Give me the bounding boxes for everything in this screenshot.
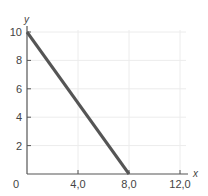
chart: 4,08,012,0246810 x y 0 — [0, 0, 208, 196]
x-tick-label: 12,0 — [169, 178, 190, 190]
x-tick-label: 4,0 — [70, 178, 85, 190]
y-tick-label: 10 — [10, 26, 22, 38]
y-tick-label: 8 — [16, 54, 22, 66]
y-tick-label: 4 — [16, 111, 22, 123]
x-axis-label: x — [192, 168, 199, 179]
y-axis-label: y — [23, 14, 30, 25]
y-tick-label: 6 — [16, 83, 22, 95]
y-tick-label: 2 — [16, 140, 22, 152]
x-tick-label: 8,0 — [121, 178, 136, 190]
axes — [27, 26, 188, 174]
grid — [27, 30, 186, 174]
ticks: 4,08,012,0246810 — [10, 26, 191, 190]
origin-label: 0 — [13, 178, 19, 190]
